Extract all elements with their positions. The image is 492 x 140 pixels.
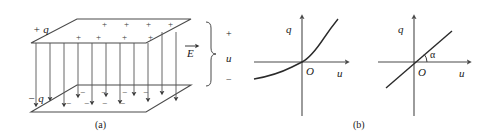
negative-charge-label: − q — [28, 92, 44, 104]
minus-sign: − — [143, 87, 148, 97]
field-label: E — [186, 47, 194, 59]
plus-sign: + — [122, 32, 127, 42]
x-axis-label: u — [337, 67, 343, 79]
origin-label: O — [306, 65, 314, 77]
plus-sign: + — [96, 32, 101, 42]
x-axis-label: u — [459, 67, 465, 79]
minus-sign: − — [101, 87, 106, 97]
bottom-plate — [31, 85, 191, 112]
plus-sign: + — [76, 32, 81, 42]
data-curve-nonlinear — [254, 19, 338, 79]
minus-sign: − — [80, 87, 85, 97]
plus-sign: + — [102, 19, 107, 29]
physics-figure: + + + + + + + + − − − − − − − − + q — [0, 0, 492, 140]
y-axis-label: q — [398, 23, 404, 35]
origin-label: O — [418, 66, 426, 78]
chart-linear: q u O α (b) — [353, 16, 470, 131]
angle-arc — [424, 54, 427, 62]
terminal-negative-label: − — [226, 74, 232, 85]
minus-sign: − — [84, 98, 89, 108]
top-plate — [31, 19, 191, 43]
plus-sign: + — [168, 19, 173, 29]
y-axis-label: q — [286, 23, 292, 35]
data-line-linear — [386, 31, 452, 88]
caption-a: (a) — [95, 119, 106, 131]
minus-sign: − — [66, 98, 71, 108]
plus-sign: + — [124, 19, 129, 29]
voltage-brace — [206, 22, 216, 86]
field-vector-label: E — [185, 46, 198, 59]
terminal-positive-label: + — [226, 28, 232, 39]
capacitor-diagram: + + + + + + + + − − − − − − − − + q — [28, 19, 232, 131]
minus-sign: − — [120, 98, 125, 108]
minus-sign: − — [122, 87, 127, 97]
top-plate-charge-signs: + + + + + + + + — [76, 19, 173, 42]
plus-sign: + — [146, 19, 151, 29]
plus-sign: + — [148, 32, 153, 42]
angle-label-alpha: α — [430, 49, 436, 60]
chart-nonlinear: q u O — [254, 16, 348, 116]
positive-charge-label: + q — [33, 23, 49, 35]
caption-b: (b) — [353, 119, 365, 131]
minus-sign: − — [102, 98, 107, 108]
voltage-label: u — [226, 52, 232, 64]
figure-canvas: + + + + + + + + − − − − − − − − + q — [0, 0, 492, 140]
